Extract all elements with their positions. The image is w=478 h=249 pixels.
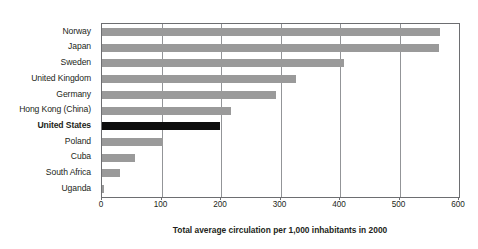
x-tick-label: 600 [451,201,465,209]
bar [102,44,439,52]
bar [102,185,104,193]
bar [102,91,276,99]
bar-row [102,150,459,166]
bar-chart-figure: NorwayJapanSwedenUnited KingdomGermanyHo… [0,0,478,249]
bar-row [102,181,459,197]
plot-area [101,23,460,198]
bar [102,28,440,36]
x-tick-label: 200 [213,201,227,209]
bar [102,138,163,146]
bar-series [102,24,459,197]
bar [102,107,231,115]
bar-row [102,166,459,182]
category-label: Sweden [0,54,96,70]
bar-row [102,134,459,150]
bar-row [102,55,459,71]
bar-row [102,71,459,87]
x-tick-label: 400 [332,201,346,209]
bar [102,75,296,83]
category-label: Uganda [0,180,96,196]
bar-row [102,40,459,56]
category-label: Japan [0,39,96,55]
category-label: South Africa [0,165,96,181]
bar-row [102,24,459,40]
x-axis-title: Total average circulation per 1,000 inha… [101,226,459,234]
bar-row [102,87,459,103]
x-axis: 0100200300400500600 [101,197,459,211]
x-tick-label: 100 [154,201,168,209]
x-tick-label: 500 [392,201,406,209]
category-label: Germany [0,86,96,102]
x-tick-label: 300 [273,201,287,209]
x-tick-label: 0 [99,201,104,209]
bar [102,154,135,162]
bar-row [102,103,459,119]
category-label: Hong Kong (China) [0,102,96,118]
bar-highlight [102,122,220,130]
bar-row [102,118,459,134]
bar [102,59,344,67]
category-label: United Kingdom [0,70,96,86]
category-axis-labels: NorwayJapanSwedenUnited KingdomGermanyHo… [0,23,96,196]
category-label: Poland [0,133,96,149]
category-label: Cuba [0,149,96,165]
category-label: Norway [0,23,96,39]
bar [102,169,120,177]
category-label: United States [0,117,96,133]
